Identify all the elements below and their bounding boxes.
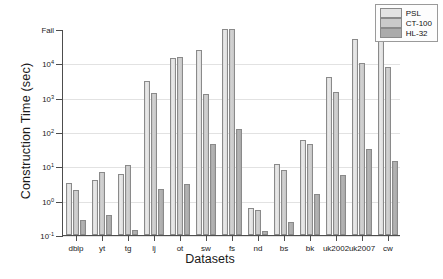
bar [158, 189, 164, 235]
y-axis-tick [56, 99, 63, 100]
bar [248, 208, 254, 235]
x-axis-tick-label: tg [125, 244, 132, 253]
bar-group [170, 30, 190, 235]
x-axis-tick [310, 235, 311, 241]
x-axis-tick [206, 235, 207, 241]
x-axis-tick [336, 235, 337, 241]
bar [352, 39, 358, 235]
y-axis-title: Construction Time (sec) [19, 31, 33, 231]
x-axis-tick-label: uk2002 [323, 244, 349, 253]
y-axis-tick-label: 102 [42, 128, 54, 139]
bar [151, 93, 157, 235]
x-axis-tick [102, 235, 103, 241]
x-axis-tick-label: cw [383, 244, 393, 253]
x-axis-tick [180, 235, 181, 241]
bar [92, 180, 98, 235]
bar [66, 183, 72, 235]
bar [222, 29, 228, 235]
legend-item: HL-32 [380, 28, 432, 38]
bar [378, 39, 384, 235]
x-axis-title: Datasets [60, 252, 360, 266]
y-axis-tick-label: 104 [42, 59, 54, 70]
y-axis-tick-label: 100 [42, 196, 54, 207]
y-axis-tick [56, 30, 63, 31]
bar [326, 77, 332, 235]
bar-group [248, 30, 268, 235]
y-axis-tick-label: 10-1 [40, 231, 54, 242]
legend-item: CT-100 [380, 18, 432, 28]
bar [99, 172, 105, 235]
x-axis-tick-label: nd [254, 244, 263, 253]
legend-label: CT-100 [406, 19, 432, 28]
x-axis-tick [128, 235, 129, 241]
bar-series-container [63, 30, 400, 235]
y-axis-tick [56, 202, 63, 203]
y-axis-tick [56, 133, 63, 134]
bar-group [378, 30, 398, 235]
legend-swatch [380, 28, 402, 38]
x-axis-tick [388, 235, 389, 241]
bar [184, 184, 190, 235]
bar [210, 144, 216, 235]
bar [132, 230, 138, 235]
bar [203, 94, 209, 235]
bar-group [300, 30, 320, 235]
bar-group [274, 30, 294, 235]
bar [262, 231, 268, 235]
bar-group [144, 30, 164, 235]
plot-area: Fail10410310210110010-1 dblpyttgljotswfs… [62, 30, 400, 236]
x-axis-tick [258, 235, 259, 241]
bar [288, 222, 294, 235]
bar [118, 174, 124, 235]
bar [236, 129, 242, 235]
x-axis-tick-label: fs [229, 244, 235, 253]
legend-item: PSL [380, 8, 432, 18]
bar [307, 144, 313, 235]
y-axis-tick-label: 103 [42, 93, 54, 104]
bar-group [222, 30, 242, 235]
chart-legend: PSLCT-100HL-32 [375, 4, 438, 42]
bar [333, 92, 339, 235]
x-axis-tick-label: dblp [68, 244, 83, 253]
bar [73, 190, 79, 235]
x-axis-tick [76, 235, 77, 241]
x-axis-tick-label: yt [99, 244, 105, 253]
bar-group [92, 30, 112, 235]
x-axis-tick-label: lj [152, 244, 156, 253]
y-axis-tick [56, 236, 63, 237]
x-axis-tick-label: ot [177, 244, 184, 253]
bar [80, 220, 86, 235]
x-axis-tick-label: uk2007 [349, 244, 375, 253]
bar-group [326, 30, 346, 235]
bar [359, 63, 365, 235]
bar [196, 50, 202, 235]
x-axis-tick [362, 235, 363, 241]
bar [106, 215, 112, 235]
bar [366, 149, 372, 235]
bar [255, 210, 261, 235]
bar [300, 140, 306, 235]
bar [281, 170, 287, 235]
chart-figure: Construction Time (sec) Datasets Fail104… [0, 0, 443, 279]
y-axis-tick [56, 167, 63, 168]
legend-swatch [380, 8, 402, 18]
x-axis-tick [284, 235, 285, 241]
bar [274, 164, 280, 235]
bar [170, 58, 176, 235]
x-axis-tick-label: bk [306, 244, 314, 253]
legend-label: PSL [406, 9, 421, 18]
y-axis-tick-label: Fail [41, 26, 54, 35]
x-axis-tick [154, 235, 155, 241]
bar [144, 81, 150, 235]
bar-group [118, 30, 138, 235]
bar [177, 57, 183, 235]
x-axis-tick-label: sw [201, 244, 211, 253]
legend-swatch [380, 18, 402, 28]
bar-group [352, 30, 372, 235]
bar [392, 161, 398, 235]
bar [385, 67, 391, 235]
bar-group [66, 30, 86, 235]
bar [340, 175, 346, 235]
bar [125, 165, 131, 235]
legend-label: HL-32 [406, 29, 428, 38]
